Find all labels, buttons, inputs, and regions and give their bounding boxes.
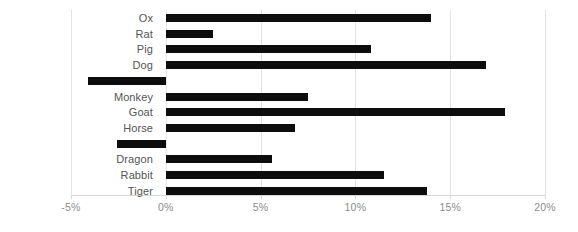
category-label-rat: Rat: [0, 28, 153, 40]
x-tick-label: 0%: [158, 201, 174, 213]
category-label-rabbit: Rabbit: [0, 169, 153, 181]
category-label-dragon: Dragon: [0, 153, 153, 165]
bar-chart: -5%0%5%10%15%20% OxRatPigDogRoosterMonke…: [0, 0, 578, 232]
category-label-pig: Pig: [0, 43, 153, 55]
bar-rooster: [88, 77, 166, 85]
bar-monkey: [166, 93, 308, 101]
bar-ox: [166, 14, 431, 22]
x-tick-label: -5%: [61, 201, 80, 213]
gridline-20pct: [545, 10, 546, 195]
gridline-10pct: [355, 10, 356, 195]
gridline-0pct: [166, 10, 167, 195]
x-tick-label: 20%: [534, 201, 556, 213]
x-tick-label: 10%: [345, 201, 367, 213]
bar-snake: [117, 140, 166, 148]
category-label-horse: Horse: [0, 122, 153, 134]
bar-goat: [166, 108, 505, 116]
tick-mark: [545, 195, 546, 199]
x-tick-label: 5%: [253, 201, 269, 213]
x-tick-label: 15%: [439, 201, 461, 213]
tick-mark: [355, 195, 356, 199]
category-label-dog: Dog: [0, 59, 153, 71]
bar-dog: [166, 61, 486, 69]
plot-area: -5%0%5%10%15%20% OxRatPigDogRoosterMonke…: [0, 0, 578, 232]
bar-tiger: [166, 187, 428, 195]
tick-mark: [261, 195, 262, 199]
bar-horse: [166, 124, 295, 132]
bar-rabbit: [166, 171, 384, 179]
bar-dragon: [166, 155, 272, 163]
gridline-5pct: [261, 10, 262, 195]
bar-rat: [166, 30, 213, 38]
gridline-15pct: [450, 10, 451, 195]
category-label-goat: Goat: [0, 106, 153, 118]
tick-mark: [450, 195, 451, 199]
tick-mark: [166, 195, 167, 199]
bar-pig: [166, 45, 371, 53]
category-label-monkey: Monkey: [0, 91, 153, 103]
category-label-tiger: Tiger: [0, 185, 153, 197]
category-label-ox: Ox: [0, 12, 153, 24]
